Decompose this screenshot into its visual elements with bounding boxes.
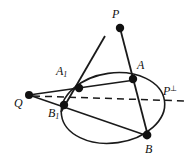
label-A1: A1 [56,65,67,79]
label-B1-subscript: 1 [55,112,59,121]
point-Q [25,91,33,99]
label-Q: Q [14,97,23,109]
point-A [129,75,137,83]
point-B [143,131,152,140]
label-A1-subscript: 1 [63,70,67,79]
line-q-b1-b [29,95,148,136]
label-P-perp: P⊥ [163,85,177,97]
label-B: B [145,143,152,155]
perpendicular-icon: ⊥ [170,84,177,93]
line-upper-a1-b1 [61,36,105,112]
point-B1 [60,101,68,109]
figure-canvas [0,0,192,165]
label-A: A [137,59,144,71]
point-P [116,24,124,32]
label-P: P [112,8,119,20]
geometry-figure: P Q A B A1 B1 P⊥ [0,0,192,165]
conic-ellipse [57,66,170,150]
point-A1 [75,84,83,92]
conic-ellipse-group [57,66,170,150]
label-B1: B1 [48,107,59,121]
